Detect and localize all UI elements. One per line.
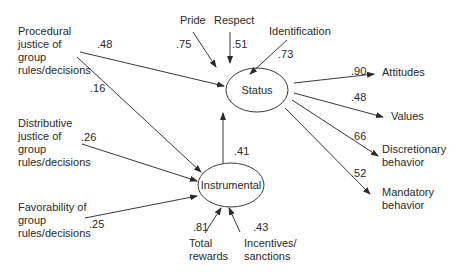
coef-identification: .73: [278, 48, 293, 61]
incentives-label: Incentives/ sanctions: [244, 237, 297, 263]
identification-label: Identification: [269, 25, 331, 38]
attitudes-label: Attitudes: [382, 66, 425, 79]
coef-favorability-instrumental: .25: [89, 218, 104, 231]
coef-procedural-status: .48: [97, 38, 112, 51]
arrow-procedural-status: [80, 52, 224, 86]
arrow-procedural-instrumental: [77, 57, 201, 172]
coef-instrumental-status: .41: [234, 145, 249, 158]
distributive-justice-label: Distributive justice of group rules/deci…: [18, 117, 91, 169]
procedural-justice-label: Procedural justice of group rules/decisi…: [18, 25, 91, 77]
respect-label: Respect: [214, 14, 254, 27]
arrow-status-values: [294, 93, 383, 117]
coef-mandatory: .52: [351, 167, 366, 180]
coef-procedural-instrumental: .16: [90, 82, 105, 95]
coef-total-rewards: .81: [193, 221, 208, 234]
favorability-label: Favorability of group rules/decisions: [18, 201, 91, 240]
discretionary-label: Discretionary behavior: [382, 143, 446, 169]
mandatory-label: Mandatory behavior: [382, 186, 434, 212]
arrow-pride-status: [193, 32, 216, 67]
instrumental-label: Instrumental: [198, 179, 264, 192]
coef-attitudes: .90: [351, 65, 366, 78]
coef-discretionary: .66: [351, 130, 366, 143]
arrow-incentives-instrumental: [229, 208, 240, 232]
coef-values: .48: [351, 91, 366, 104]
coef-distributive-instrumental: .26: [81, 131, 96, 144]
arrow-favorability-instrumental: [85, 196, 197, 218]
coef-incentives: .43: [253, 221, 268, 234]
coef-pride: .75: [176, 38, 191, 51]
status-label: Status: [231, 84, 283, 97]
total-rewards-label: Total rewards: [189, 237, 228, 263]
arrow-distributive-instrumental: [82, 144, 197, 181]
pride-label: Pride: [180, 14, 206, 27]
arrow-status-mandatory: [285, 108, 370, 194]
values-label: Values: [391, 110, 424, 123]
coef-respect: .51: [232, 38, 247, 51]
